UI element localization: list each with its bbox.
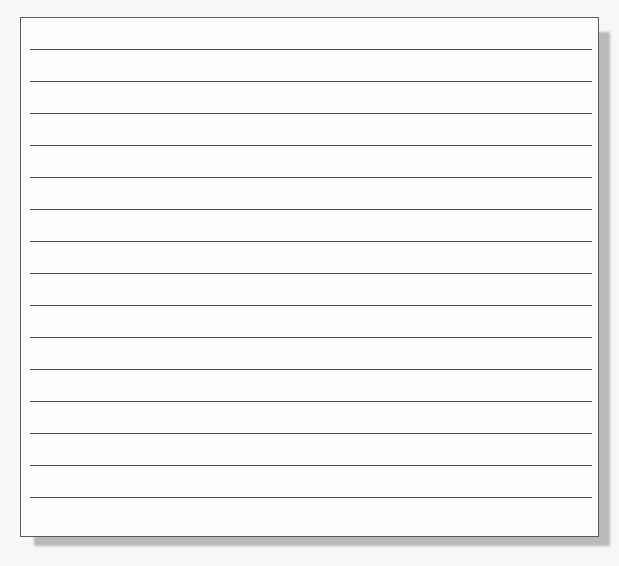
ruled-line <box>30 145 592 146</box>
ruled-line <box>30 465 592 466</box>
ruled-line <box>30 113 592 114</box>
ruled-line <box>30 177 592 178</box>
ruled-line <box>30 433 592 434</box>
ruled-line <box>30 241 592 242</box>
ruled-line <box>30 81 592 82</box>
ruled-line <box>30 49 592 50</box>
ruled-line <box>30 497 592 498</box>
ruled-line <box>30 369 592 370</box>
ruled-line <box>30 337 592 338</box>
ruled-line <box>30 401 592 402</box>
ruled-line <box>30 305 592 306</box>
ruled-line <box>30 209 592 210</box>
ruled-line <box>30 273 592 274</box>
lined-sheet <box>20 17 599 537</box>
